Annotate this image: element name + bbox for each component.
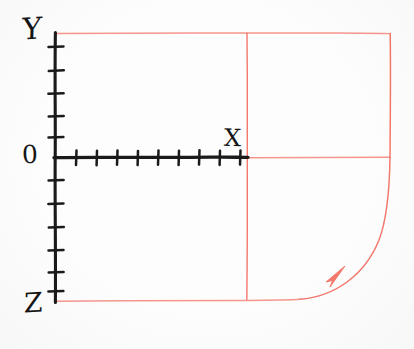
overlay-right-boundary [390, 34, 391, 158]
overlay-quarter-arc [300, 157, 390, 299]
x-axis-label: X [224, 126, 242, 151]
overlay-inner-vertical [247, 33, 248, 300]
overlay-top-boundary [56, 33, 391, 34]
red-overlay-group [56, 33, 391, 301]
hand-drawn-axes-figure [0, 0, 414, 349]
origin-label: 0 [22, 142, 39, 168]
overlay-bottom-boundary [56, 299, 301, 301]
overlay-arrowhead-icon [326, 266, 345, 287]
diagram-canvas: Y 0 Z X [0, 0, 414, 349]
z-axis-label: Z [24, 288, 43, 316]
y-axis-label: Y [21, 13, 42, 45]
overlay-mid-horizontal [246, 157, 390, 158]
black-axes-group [48, 33, 248, 303]
